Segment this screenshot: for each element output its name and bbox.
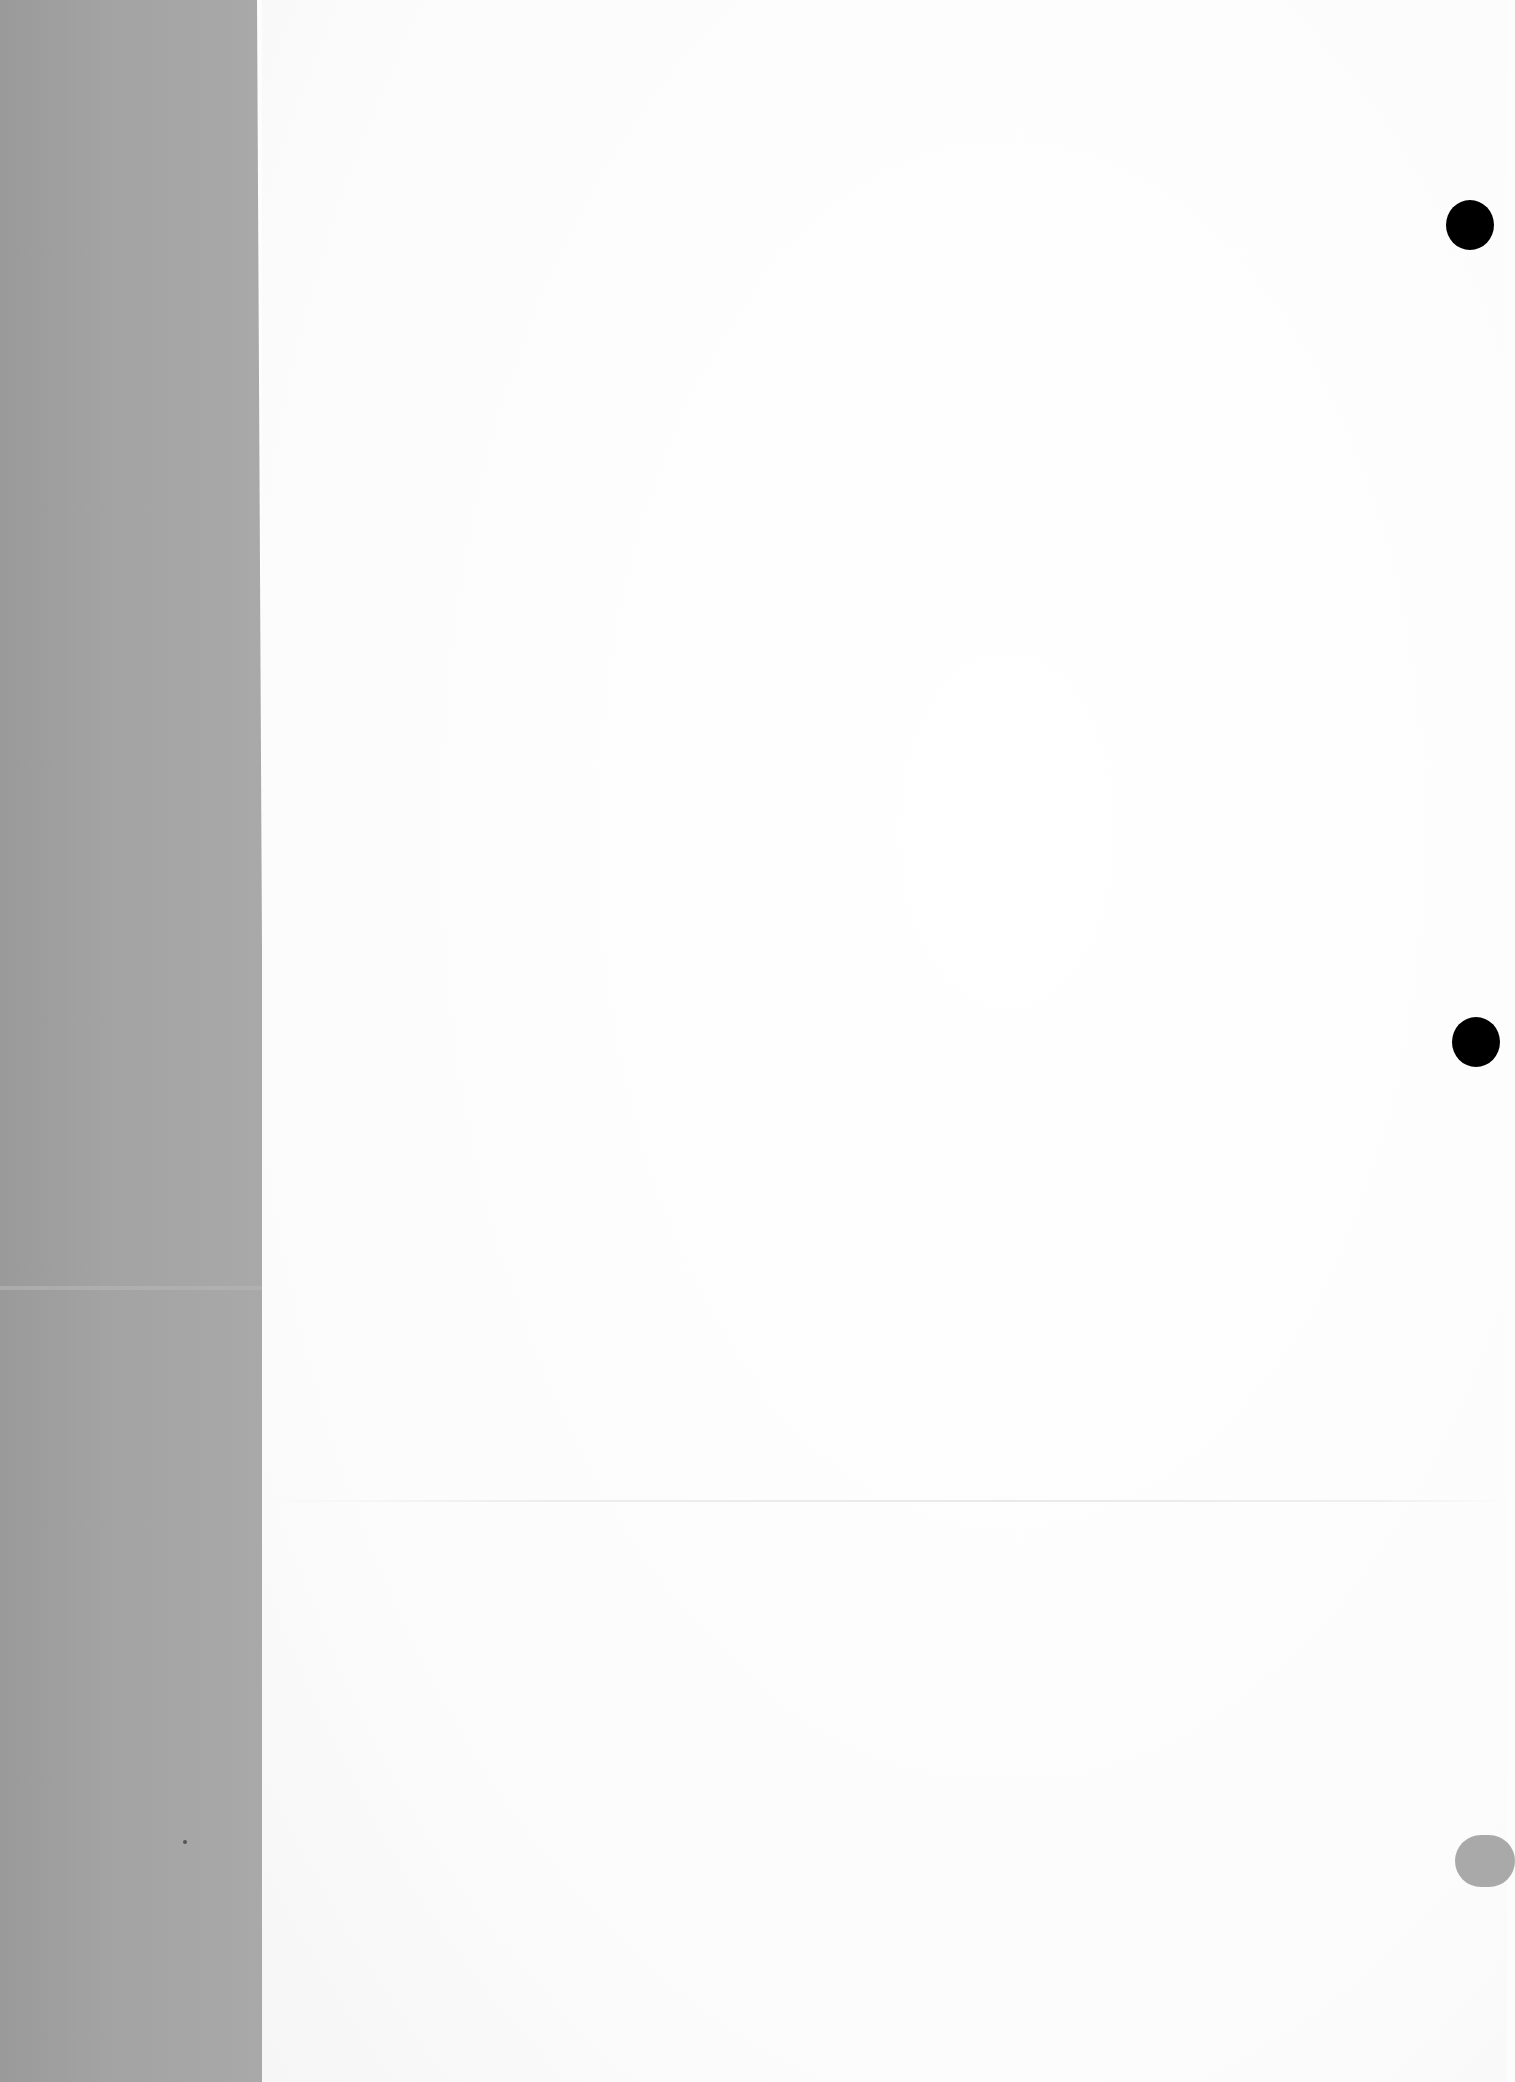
fold-crease <box>262 1500 1507 1502</box>
binding-strip <box>0 0 268 2082</box>
binding-seam <box>0 1286 262 1290</box>
dust-speck <box>183 1840 187 1844</box>
punch-hole-top <box>1446 200 1494 250</box>
punch-hole-bottom <box>1455 1835 1515 1887</box>
blank-page <box>262 0 1507 2082</box>
punch-hole-middle <box>1452 1017 1500 1067</box>
